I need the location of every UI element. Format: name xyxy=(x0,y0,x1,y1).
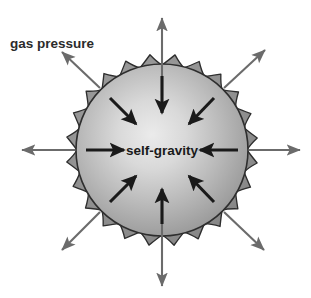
self-gravity-label: self-gravity xyxy=(126,143,199,158)
gas-pressure-label: gas pressure xyxy=(10,36,95,51)
diagram-canvas: gas pressure self-gravity xyxy=(0,0,311,298)
